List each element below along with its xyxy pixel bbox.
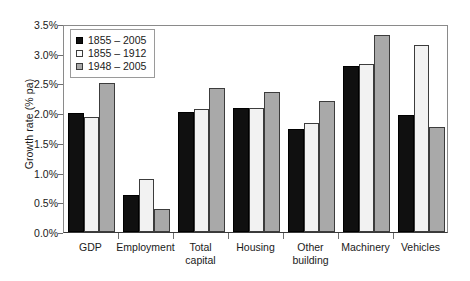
- x-axis-separator: [338, 233, 339, 239]
- bar: [264, 92, 280, 232]
- legend-item-label: 1855 – 2005: [88, 35, 146, 46]
- white-square-icon: [76, 50, 83, 57]
- category-label-line: building: [275, 254, 346, 267]
- bar: [359, 64, 375, 232]
- x-axis-category-label: Vehicles: [385, 241, 456, 254]
- black-square-icon: [76, 37, 83, 44]
- y-tick-label: 3.5%: [14, 20, 58, 31]
- bar: [68, 113, 84, 232]
- y-tick-label: 0.0%: [14, 228, 58, 239]
- bar: [84, 117, 100, 232]
- bar: [398, 115, 414, 232]
- legend-item[interactable]: 1855 – 1912: [76, 47, 146, 60]
- bar: [304, 123, 320, 232]
- x-axis-separator: [393, 233, 394, 239]
- y-tick-label: 2.5%: [14, 79, 58, 90]
- category-label-line: capital: [165, 254, 236, 267]
- bar: [374, 35, 390, 232]
- bar-group: [394, 26, 449, 232]
- x-axis-separator: [173, 233, 174, 239]
- bar: [414, 45, 430, 232]
- bar: [209, 88, 225, 232]
- bar-group: [174, 26, 229, 232]
- x-axis-separator: [283, 233, 284, 239]
- y-tick-label: 2.0%: [14, 109, 58, 120]
- bar: [99, 83, 115, 232]
- y-tick-label: 1.0%: [14, 168, 58, 179]
- legend-item-label: 1855 – 1912: [88, 48, 146, 59]
- bar: [249, 108, 265, 232]
- bar: [429, 127, 445, 232]
- bar: [139, 179, 155, 232]
- y-tick-label: 3.0%: [14, 49, 58, 60]
- bar: [123, 195, 139, 232]
- y-tick-label: 1.5%: [14, 139, 58, 150]
- bar: [194, 109, 210, 232]
- gray-square-icon: [76, 63, 83, 70]
- legend-item-label: 1948 – 2005: [88, 61, 146, 72]
- bar-group: [284, 26, 339, 232]
- bar-group: [229, 26, 284, 232]
- bar: [233, 108, 249, 232]
- bar: [343, 66, 359, 232]
- bar-chart: Growth rate (% pa) 0.0%0.5%1.0%1.5%2.0%2…: [0, 0, 470, 281]
- bar: [319, 101, 335, 232]
- bar: [178, 112, 194, 232]
- legend-item[interactable]: 1948 – 2005: [76, 60, 146, 73]
- bar: [288, 129, 304, 232]
- chart-legend: 1855 – 20051855 – 19121948 – 2005: [70, 29, 155, 78]
- x-axis-separator: [118, 233, 119, 239]
- bar-group: [339, 26, 394, 232]
- y-tick-mark: [58, 233, 63, 234]
- category-label-line: Vehicles: [385, 241, 456, 254]
- bar: [154, 209, 170, 232]
- legend-item[interactable]: 1855 – 2005: [76, 34, 146, 47]
- y-tick-label: 0.5%: [14, 198, 58, 209]
- x-axis-separator: [228, 233, 229, 239]
